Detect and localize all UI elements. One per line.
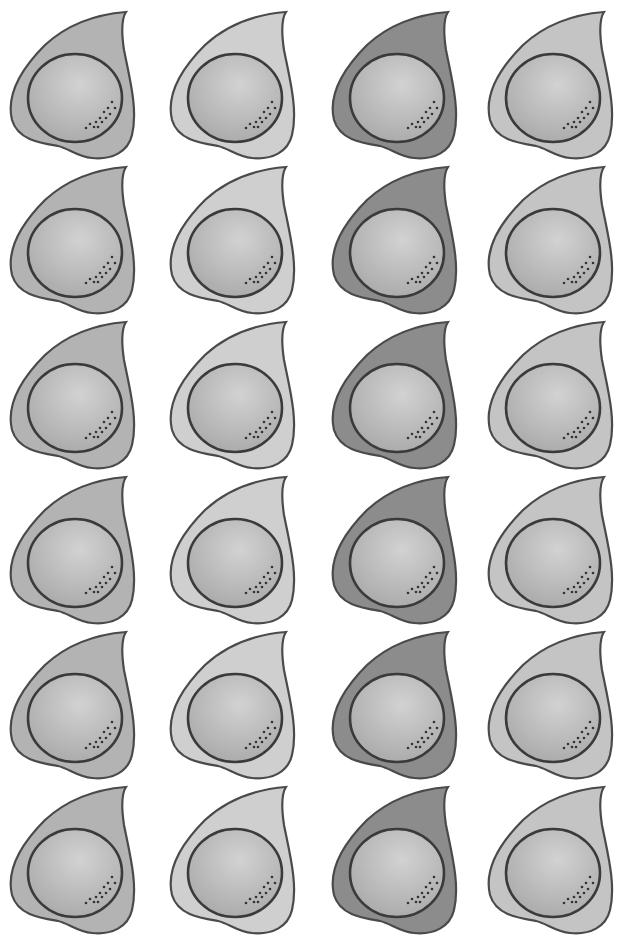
cell-illustration — [478, 310, 621, 470]
cell-illustration — [322, 775, 482, 935]
cell-nucleus — [28, 364, 122, 452]
cell-nucleus — [188, 674, 282, 762]
cell-illustration — [160, 0, 320, 160]
cell-nucleus — [350, 209, 444, 297]
cell-illustration — [322, 155, 482, 315]
cell-icon — [322, 0, 482, 160]
cell-illustration — [0, 0, 160, 160]
cell-icon — [160, 310, 320, 470]
cell-nucleus — [350, 829, 444, 917]
cell-icon — [322, 310, 482, 470]
cell-icon — [322, 465, 482, 625]
cell-illustration — [478, 465, 621, 625]
cell-nucleus — [506, 674, 600, 762]
cell-icon — [478, 620, 621, 780]
cell-icon — [478, 775, 621, 935]
cell-nucleus — [350, 54, 444, 142]
cell-illustration — [0, 155, 160, 315]
cell-icon — [478, 310, 621, 470]
cell-icon — [0, 775, 160, 935]
cell-icon — [322, 775, 482, 935]
cell-icon — [0, 620, 160, 780]
cell-illustration — [160, 465, 320, 625]
cell-nucleus — [350, 674, 444, 762]
cell-illustration — [322, 465, 482, 625]
cell-illustration — [322, 620, 482, 780]
cell-icon — [160, 775, 320, 935]
cell-nucleus — [28, 54, 122, 142]
cell-icon — [0, 0, 160, 160]
cell-illustration — [0, 775, 160, 935]
cell-illustration — [478, 620, 621, 780]
cell-icon — [478, 0, 621, 160]
cell-nucleus — [506, 364, 600, 452]
cell-nucleus — [506, 209, 600, 297]
cell-illustration — [322, 310, 482, 470]
cell-nucleus — [28, 209, 122, 297]
cell-icon — [160, 0, 320, 160]
cell-illustration — [160, 775, 320, 935]
cell-nucleus — [506, 519, 600, 607]
cell-illustration — [0, 620, 160, 780]
cell-illustration — [160, 155, 320, 315]
cell-nucleus — [188, 209, 282, 297]
cell-illustration — [478, 775, 621, 935]
cell-nucleus — [28, 674, 122, 762]
cell-icon — [160, 465, 320, 625]
cell-illustration — [0, 465, 160, 625]
cell-nucleus — [350, 364, 444, 452]
cell-nucleus — [506, 54, 600, 142]
cell-nucleus — [188, 54, 282, 142]
cell-illustration — [160, 310, 320, 470]
cell-icon — [0, 310, 160, 470]
cell-illustration — [0, 310, 160, 470]
cell-illustration — [478, 155, 621, 315]
cell-nucleus — [188, 364, 282, 452]
cell-icon — [160, 155, 320, 315]
cell-illustration — [160, 620, 320, 780]
cell-icon — [160, 620, 320, 780]
cell-illustration — [322, 0, 482, 160]
cell-icon — [322, 155, 482, 315]
cell-icon — [0, 465, 160, 625]
cell-nucleus — [28, 829, 122, 917]
cell-icon — [322, 620, 482, 780]
cell-nucleus — [188, 829, 282, 917]
cell-grid — [0, 0, 621, 947]
cell-nucleus — [506, 829, 600, 917]
cell-nucleus — [350, 519, 444, 607]
cell-illustration — [478, 0, 621, 160]
cell-nucleus — [188, 519, 282, 607]
cell-nucleus — [28, 519, 122, 607]
cell-icon — [478, 155, 621, 315]
cell-icon — [0, 155, 160, 315]
cell-icon — [478, 465, 621, 625]
